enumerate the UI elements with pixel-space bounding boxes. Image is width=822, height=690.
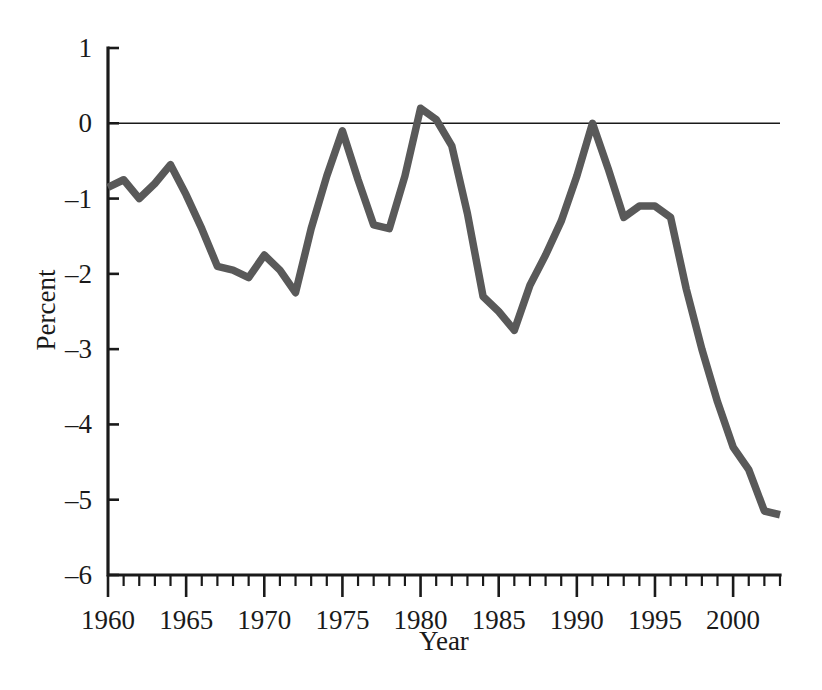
x-tick-label: 2000 (706, 605, 760, 635)
x-axis-ticks-group (108, 575, 780, 597)
x-tick-label: 1970 (237, 605, 291, 635)
y-tick-label: 0 (79, 108, 93, 138)
y-tick-label: –4 (64, 409, 93, 439)
y-tick-label: –2 (64, 259, 92, 289)
y-axis-tick-labels-group: 10–1–2–3–4–5–6 (64, 33, 93, 590)
chart-figure: 10–1–2–3–4–5–6 1960196519701975198019851… (0, 0, 822, 690)
line-chart-canvas: 10–1–2–3–4–5–6 1960196519701975198019851… (0, 0, 822, 690)
x-tick-label: 1990 (550, 605, 604, 635)
x-tick-label: 1960 (81, 605, 135, 635)
y-tick-label: –6 (64, 560, 92, 590)
y-tick-label: 1 (79, 33, 93, 63)
x-tick-label: 1965 (159, 605, 213, 635)
y-axis-ticks-group (108, 48, 119, 575)
x-tick-label: 1985 (472, 605, 526, 635)
x-tick-label: 1995 (628, 605, 682, 635)
x-tick-label: 1975 (315, 605, 369, 635)
y-tick-label: –1 (64, 184, 92, 214)
data-series-line (108, 108, 780, 515)
y-tick-label: –5 (64, 485, 92, 515)
x-axis-title: Year (419, 626, 469, 656)
y-axis-title: Percent (31, 269, 61, 350)
data-series-group (108, 108, 780, 515)
y-tick-label: –3 (64, 334, 92, 364)
